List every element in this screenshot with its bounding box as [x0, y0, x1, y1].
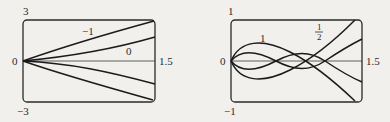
left-curve-0	[23, 37, 155, 61]
right-curve-1-lower	[231, 20, 355, 79]
fraction-numerator: 1	[317, 22, 322, 32]
left-curve-label-0: 0	[126, 45, 132, 57]
left-x-right-label: 1.5	[159, 55, 173, 67]
plots-canvas: 3 0 −3 1.5 −1 0 1 0 −1 1.5 1 1	[0, 0, 390, 122]
right-curve-label-1: 1	[260, 32, 266, 44]
right-y-bottom-label: −1	[224, 105, 236, 117]
left-y-top-label: 3	[23, 5, 29, 17]
right-curve-1-upper	[231, 43, 355, 101]
left-curve-lower-1	[23, 61, 155, 84]
right-curve-label-half: 1 2	[315, 22, 323, 42]
right-y-zero-label: 0	[220, 55, 226, 67]
fraction-denominator: 2	[317, 32, 322, 42]
right-y-top-label: 1	[228, 5, 234, 17]
right-plot: 1 0 −1 1.5 1 1 2	[220, 5, 380, 117]
left-y-bottom-label: −3	[17, 105, 29, 117]
left-y-zero-label: 0	[12, 55, 18, 67]
left-curve-lower-2	[23, 61, 153, 100]
figure: 3 0 −3 1.5 −1 0 1 0 −1 1.5 1 1	[0, 0, 390, 122]
right-x-right-label: 1.5	[366, 55, 380, 67]
left-plot: 3 0 −3 1.5 −1 0	[12, 5, 173, 117]
left-curve-label-minus1: −1	[82, 25, 94, 37]
